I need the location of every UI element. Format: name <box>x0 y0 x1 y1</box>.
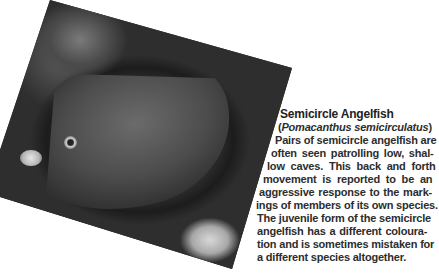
caption-line: angelfish has a different coloura- <box>257 225 427 237</box>
photo-caption: Semicircle Angelfish (Pomacanthus semici… <box>0 0 439 276</box>
scientific-name: Pomacanthus semicirculatus <box>281 121 428 133</box>
caption-line: low caves. This back and forth <box>267 160 436 172</box>
caption-line: Pairs of semicircle angelfish are <box>275 134 404 146</box>
caption-line: The juvenile form of the semicircle <box>257 212 431 224</box>
caption-line: movement is reported to be an <box>263 173 432 185</box>
caption-line: tion and is sometimes mistaken for <box>257 238 434 250</box>
caption-line: a different species altogether. <box>257 251 406 263</box>
caption-title: Semicircle Angelfish <box>280 108 394 120</box>
caption-line: often seen patrolling low, shal- <box>271 147 434 159</box>
caption-line: ings of members of its own species. <box>256 199 438 211</box>
caption-line: aggressive response to the mark- <box>259 186 432 198</box>
caption-scientific-name: (Pomacanthus semicirculatus) <box>278 121 432 133</box>
